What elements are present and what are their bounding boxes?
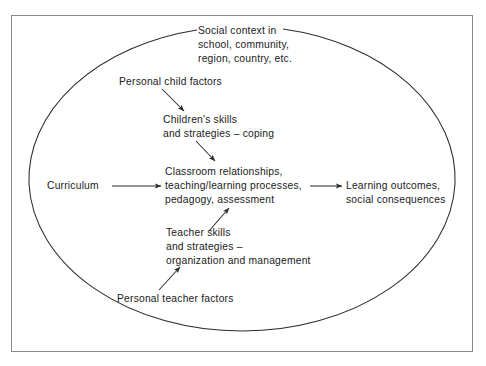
edge-teacher-factors-to-skills	[159, 267, 180, 290]
node-personal-child-factors: Personal child factors	[119, 75, 222, 89]
node-classroom-relationships: Classroom relationships, teaching/learni…	[165, 165, 302, 208]
node-learning-outcomes: Learning outcomes, social consequences	[346, 179, 446, 207]
node-teacher-skills: Teacher skills and strategies – organiza…	[166, 226, 311, 269]
figure-canvas: Social context in school, community, reg…	[0, 0, 486, 366]
edge-skills-to-classroom	[196, 141, 215, 161]
edge-child-factors-to-skills	[162, 89, 184, 111]
node-childrens-skills: Children's skills and strategies – copin…	[163, 113, 274, 141]
node-curriculum: Curriculum	[47, 179, 99, 193]
node-social-context: Social context in school, community, reg…	[198, 24, 292, 67]
node-personal-teacher-factors: Personal teacher factors	[117, 292, 234, 306]
